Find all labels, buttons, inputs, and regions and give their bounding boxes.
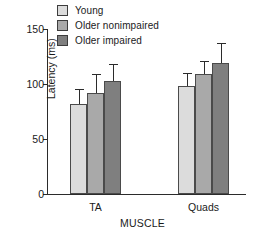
bar-ta-older-impaired	[104, 81, 121, 194]
error-bar-cap	[109, 64, 118, 65]
error-bar-stem	[113, 65, 114, 80]
error-bar-stem	[79, 90, 80, 104]
error-bar-stem	[204, 62, 205, 74]
bar-quads-young	[178, 86, 195, 194]
error-bar-stem	[187, 74, 188, 86]
bar-ta-young	[70, 104, 87, 194]
legend-label-young: Young	[75, 5, 104, 16]
legend-item-young: Young	[57, 3, 207, 17]
error-bar-cap	[75, 89, 84, 90]
x-category-label-quads: Quads	[188, 201, 219, 213]
x-axis-title: MUSCLE	[120, 217, 165, 229]
plot-area: Latency (ms) 050100150 TA Quads MUSCLE	[47, 29, 256, 194]
y-tick-label: 150	[26, 23, 44, 35]
y-axis-title: Latency (ms)	[45, 38, 57, 99]
error-bar-stem	[96, 75, 97, 93]
bar-quads-older-impaired	[212, 63, 229, 194]
error-bar-cap	[200, 61, 209, 62]
y-tick-label: 100	[26, 78, 44, 90]
x-category-label-ta: TA	[89, 201, 102, 213]
error-bar-stem	[221, 44, 222, 63]
error-bar-cap	[217, 43, 226, 44]
bar-ta-older-nonimpaired	[87, 93, 104, 194]
error-bar-cap	[183, 73, 192, 74]
y-tick-label: 50	[32, 133, 44, 145]
x-axis-line	[47, 194, 246, 195]
bar-quads-older-nonimpaired	[195, 74, 212, 194]
error-bar-cap	[92, 74, 101, 75]
bar-chart-figure: Young Older nonimpaired Older impaired L…	[0, 0, 256, 231]
legend-swatch-young	[57, 5, 68, 16]
y-tick-label: 0	[38, 188, 44, 200]
